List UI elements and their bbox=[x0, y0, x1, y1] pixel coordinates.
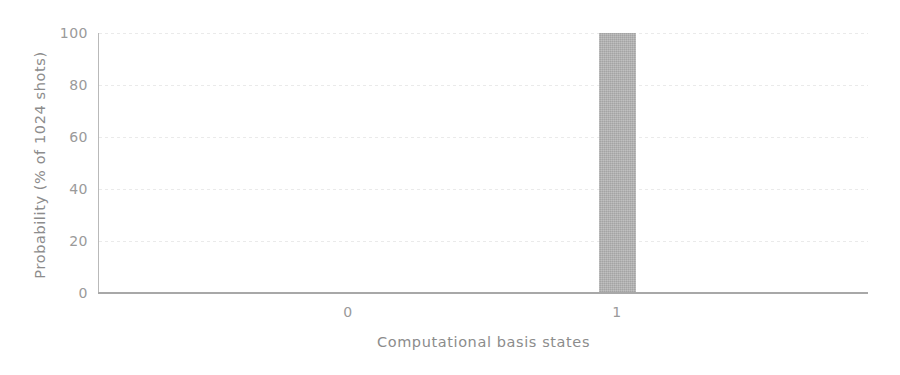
y-tick-label: 100 bbox=[42, 26, 88, 40]
bar-state-1[interactable] bbox=[599, 33, 636, 293]
gridline-20 bbox=[99, 241, 868, 242]
y-tick-label: 80 bbox=[42, 78, 88, 92]
x-axis-spine bbox=[98, 292, 868, 294]
gridline-100 bbox=[99, 33, 868, 34]
y-axis-spine bbox=[98, 33, 99, 294]
y-tick-label: 0 bbox=[42, 286, 88, 300]
y-tick-label: 40 bbox=[42, 182, 88, 196]
bar-chart: Probability (% of 1024 shots) 100 80 60 … bbox=[0, 0, 900, 375]
gridline-80 bbox=[99, 85, 868, 86]
x-axis-title: Computational basis states bbox=[99, 334, 868, 351]
x-tick-label-1: 1 bbox=[587, 304, 647, 321]
y-tick-label: 60 bbox=[42, 130, 88, 144]
y-axis-tick-labels: 100 80 60 40 20 0 bbox=[42, 33, 88, 293]
plot-area bbox=[99, 33, 868, 293]
x-tick-label-0: 0 bbox=[318, 304, 378, 321]
gridline-40 bbox=[99, 189, 868, 190]
gridline-60 bbox=[99, 137, 868, 138]
y-tick-label: 20 bbox=[42, 234, 88, 248]
